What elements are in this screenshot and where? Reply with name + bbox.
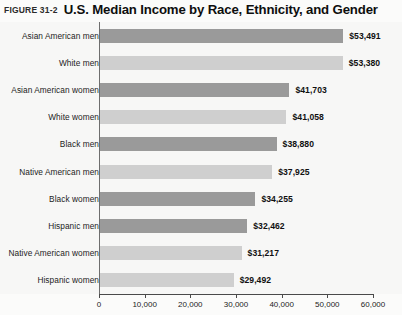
bar-row: Asian American men$53,491 (0, 22, 402, 49)
bar-value-label: $29,492 (240, 275, 271, 285)
axis-tick-label: 40,000 (269, 300, 293, 309)
bar-row: Black women$34,255 (0, 185, 402, 212)
bar-row: Black men$38,880 (0, 131, 402, 158)
category-label: Asian American men (22, 31, 99, 41)
axis-tick-label: 60,000 (361, 300, 385, 309)
axis-tick-label: 50,000 (315, 300, 339, 309)
bar-value-label: $34,255 (261, 194, 292, 204)
category-label: Hispanic men (48, 221, 99, 231)
bar-row: Hispanic women$29,492 (0, 267, 402, 294)
bar-value-label: $41,058 (292, 112, 323, 122)
bar-row: Asian American women$41,703 (0, 76, 402, 103)
category-label: Native American women (8, 248, 99, 258)
bar-row: Native American men$37,925 (0, 158, 402, 185)
axis-tick (373, 294, 374, 298)
bar-value-label: $53,491 (349, 31, 380, 41)
bar (99, 56, 343, 70)
bar-value-label: $41,703 (295, 85, 326, 95)
axis-tick (99, 294, 100, 298)
bar-row: Native American women$31,217 (0, 240, 402, 267)
bar (99, 29, 343, 43)
bar (99, 246, 242, 260)
axis-tick (145, 294, 146, 298)
bar (99, 83, 289, 97)
category-label: Black men (60, 139, 99, 149)
bar-value-label: $37,925 (278, 167, 309, 177)
category-label: Native American men (19, 167, 99, 177)
bar-value-label: $31,217 (248, 248, 279, 258)
axis-tick-label: 0 (97, 300, 101, 309)
bar-value-label: $53,380 (349, 58, 380, 68)
category-label: White men (59, 58, 99, 68)
axis-tick-label: 10,000 (132, 300, 156, 309)
axis-tick-label: 20,000 (178, 300, 202, 309)
bar (99, 219, 247, 233)
figure-caption: FIGURE 31-2 U.S. Median Income by Race, … (4, 2, 398, 20)
bar-row: White women$41,058 (0, 104, 402, 131)
bar (99, 137, 277, 151)
bar-value-label: $38,880 (283, 139, 314, 149)
figure-number: FIGURE 31-2 (4, 5, 58, 15)
bar-row: Hispanic men$32,462 (0, 212, 402, 239)
axis-tick (327, 294, 328, 298)
bar-value-label: $32,462 (253, 221, 284, 231)
bar (99, 165, 272, 179)
category-label: White women (48, 112, 99, 122)
category-label: Hispanic women (37, 275, 99, 285)
plot-area: Asian American men$53,491White men$53,38… (0, 22, 402, 294)
axis-tick (282, 294, 283, 298)
bar (99, 273, 234, 287)
y-axis-line (99, 22, 100, 294)
axis-tick (190, 294, 191, 298)
chart-title: U.S. Median Income by Race, Ethnicity, a… (64, 2, 378, 17)
x-axis: 010,00020,00030,00040,00050,00060,000 (0, 294, 402, 315)
axis-tick (236, 294, 237, 298)
bar (99, 192, 255, 206)
bar-row: White men$53,380 (0, 49, 402, 76)
figure-container: FIGURE 31-2 U.S. Median Income by Race, … (0, 0, 402, 315)
category-label: Black women (49, 194, 99, 204)
bar (99, 110, 286, 124)
category-label: Asian American women (11, 85, 99, 95)
axis-tick-label: 30,000 (224, 300, 248, 309)
